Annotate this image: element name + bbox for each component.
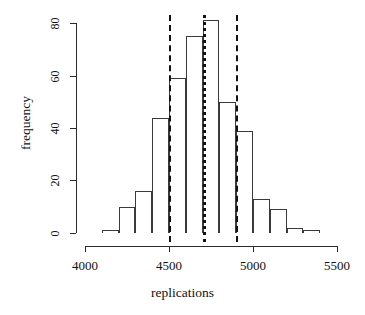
- y-tick-label-40: 40: [48, 119, 63, 139]
- x-tick-4500: [169, 246, 170, 252]
- histogram-bar: [186, 36, 203, 233]
- histogram-bar: [253, 199, 270, 233]
- histogram-bar: [119, 207, 136, 233]
- x-tick-5500: [337, 246, 338, 252]
- lower-reference-line: [169, 15, 171, 242]
- histogram-bar: [169, 78, 186, 233]
- y-tick-label-80: 80: [48, 14, 63, 34]
- histogram-bar: [303, 230, 320, 233]
- y-tick-label-60: 60: [48, 67, 63, 87]
- x-tick-label-4000: 4000: [65, 258, 105, 274]
- y-tick-40: [70, 128, 76, 129]
- y-tick-60: [70, 76, 76, 77]
- y-axis-label: frequency: [18, 83, 34, 163]
- x-tick-4000: [85, 246, 86, 252]
- center-reference-line: [203, 15, 206, 242]
- x-tick-label-5000: 5000: [233, 258, 273, 274]
- upper-reference-line: [236, 15, 238, 242]
- histogram-bar: [102, 230, 119, 233]
- histogram-plot: 0 20 40 60 80 4000 4500 5000 5500 freque…: [0, 0, 365, 315]
- y-tick-20: [70, 180, 76, 181]
- y-tick-label-0: 0: [48, 224, 63, 244]
- histogram-bar: [219, 102, 236, 233]
- y-tick-label-20: 20: [48, 171, 63, 191]
- histogram-bar: [135, 191, 152, 233]
- y-tick-80: [70, 23, 76, 24]
- y-tick-0: [70, 233, 76, 234]
- x-axis-label: replications: [0, 285, 365, 301]
- histogram-bar: [287, 228, 304, 233]
- histogram-bar: [152, 118, 169, 234]
- x-tick-label-5500: 5500: [317, 258, 357, 274]
- x-tick-5000: [253, 246, 254, 252]
- histogram-bar: [270, 209, 287, 233]
- x-axis-line: [85, 246, 337, 247]
- histogram-bar: [236, 131, 253, 233]
- x-tick-label-4500: 4500: [149, 258, 189, 274]
- y-axis-line: [76, 23, 77, 233]
